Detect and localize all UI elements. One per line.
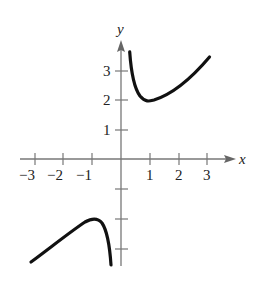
x-tick-label: 2 <box>175 167 183 183</box>
x-axis-label: x <box>238 151 246 167</box>
x-tick-label: −3 <box>19 167 35 183</box>
curve-right-branch <box>130 52 210 101</box>
x-tick-label: 1 <box>146 167 154 183</box>
curve-left-branch <box>31 219 111 265</box>
y-tick-label: 1 <box>103 122 111 138</box>
y-tick-label: 2 <box>103 92 111 108</box>
y-axis-label: y <box>115 21 124 37</box>
chart-canvas: −3 −2 −1 1 2 3 1 2 3 x y <box>0 0 260 292</box>
x-tick-label: −1 <box>76 167 92 183</box>
y-tick-label: 3 <box>103 63 111 79</box>
x-tick-label: −2 <box>47 167 63 183</box>
x-tick-label: 3 <box>203 167 211 183</box>
